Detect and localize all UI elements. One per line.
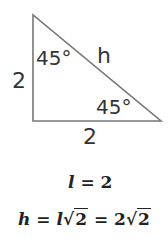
hypotenuse-label: h <box>97 45 111 67</box>
radicand-2: 2 <box>137 208 151 229</box>
eq2-coef: 2 <box>114 209 126 229</box>
radicand-1: 2 <box>74 208 88 229</box>
eq2-equals-1: = <box>36 209 50 229</box>
eq1-rhs: 2 <box>101 172 113 192</box>
eq1-equals: = <box>80 172 94 192</box>
eq1-lhs: l <box>68 172 74 192</box>
equation-l: l = 2 <box>68 174 112 191</box>
top-angle-label: 45° <box>36 48 71 68</box>
sqrt-symbol-2: √ <box>126 211 137 228</box>
right-angle-label: 45° <box>96 97 131 117</box>
bottom-side-label: 2 <box>83 126 97 148</box>
eq2-lhs: h <box>18 209 30 229</box>
sqrt-symbol-1: √ <box>63 211 74 228</box>
eq2-equals-2: = <box>94 209 108 229</box>
left-side-label: 2 <box>12 70 26 92</box>
equation-h: h = l√2 = 2√2 <box>18 211 151 228</box>
